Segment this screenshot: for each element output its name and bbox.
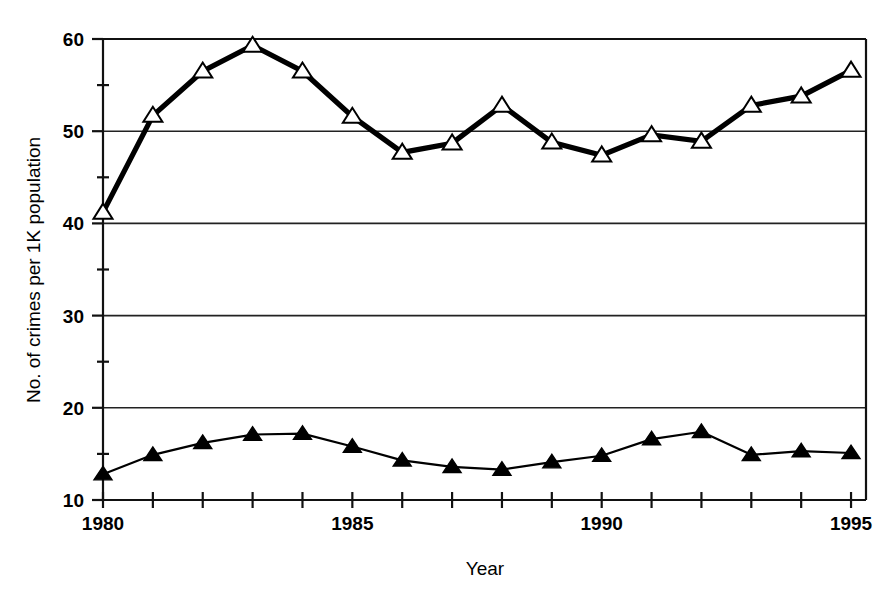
y-tick-label-40: 40: [63, 213, 84, 234]
data-point-upper-series-1988: [492, 97, 511, 112]
y-axis-ticks: [92, 39, 109, 500]
data-point-lower-series-1992: [692, 424, 710, 438]
data-point-lower-series-1994: [792, 443, 810, 457]
data-point-upper-series-1980: [94, 204, 113, 219]
data-point-lower-series-1984: [293, 426, 311, 440]
series-upper-series: [94, 37, 861, 219]
series-line-upper-series: [103, 45, 851, 212]
line-chart: 1980198519901995 102030405060 Year No. o…: [0, 0, 893, 592]
x-tick-label-1985: 1985: [331, 513, 374, 534]
gridlines-group: [103, 39, 866, 408]
x-axis-tick-labels: 1980198519901995: [82, 513, 873, 534]
y-tick-label-60: 60: [63, 29, 84, 50]
y-tick-label-30: 30: [63, 306, 84, 327]
y-tick-label-10: 10: [63, 490, 84, 511]
y-tick-label-20: 20: [63, 398, 84, 419]
x-axis-title: Year: [466, 558, 505, 579]
chart-figure: 1980198519901995 102030405060 Year No. o…: [0, 0, 893, 592]
series-line-lower-series: [103, 432, 851, 474]
y-tick-label-50: 50: [63, 121, 84, 142]
data-point-lower-series-1980: [94, 466, 112, 480]
x-tick-label-1990: 1990: [581, 513, 623, 534]
data-point-upper-series-1995: [842, 62, 861, 77]
x-tick-label-1980: 1980: [82, 513, 124, 534]
y-axis-tick-labels: 102030405060: [63, 29, 84, 511]
x-tick-label-1995: 1995: [830, 513, 873, 534]
y-axis-title: No. of crimes per 1K population: [23, 137, 44, 403]
data-series-group: [94, 37, 861, 480]
series-lower-series: [94, 424, 860, 480]
